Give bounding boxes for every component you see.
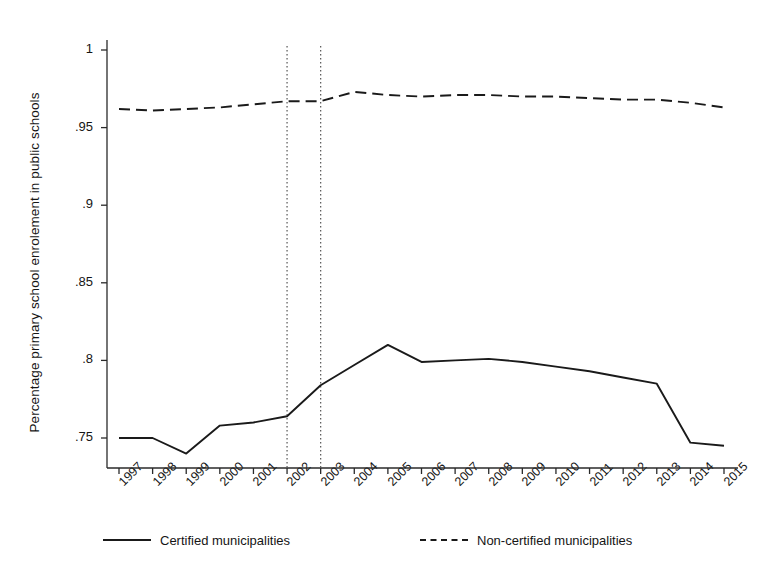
legend-line-solid-icon: [103, 534, 151, 546]
legend-entry-certified: Certified municipalities: [103, 528, 290, 552]
legend-entry-non-certified: Non-certified municipalities: [420, 528, 632, 552]
legend-line-dashed-icon: [420, 534, 468, 546]
legend-label-certified: Certified municipalities: [160, 533, 290, 548]
chart-legend: Certified municipalities Non-certified m…: [0, 528, 767, 558]
plot-area: [0, 0, 767, 570]
series-line-1: [119, 92, 724, 111]
legend-label-non-certified: Non-certified municipalities: [477, 533, 632, 548]
series-line-0: [119, 345, 724, 454]
chart-figure: Percentage primary school enrolement in …: [0, 0, 767, 570]
